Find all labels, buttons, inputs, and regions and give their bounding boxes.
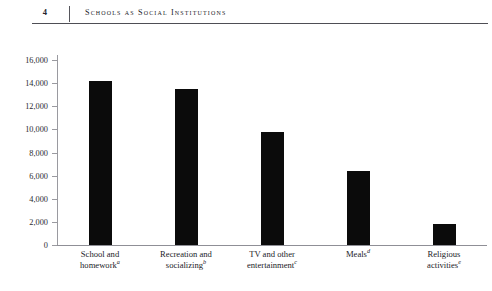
x-label-line: Religious [428,249,461,259]
y-axis-tick [52,199,57,200]
x-label-line: Recreation and [160,249,212,259]
x-label-line: activities [427,260,458,270]
y-axis-tick [52,222,57,223]
footnote-marker: b [203,259,206,266]
x-axis-category-label: TV and otherentertainmentc [223,249,321,272]
x-axis-category-label: Recreation andsocializingb [137,249,235,272]
x-axis-category-label: School andhomeworka [51,249,149,272]
x-axis-labels: School andhomeworkaRecreation andsociali… [57,249,487,287]
y-axis-tick [52,129,57,130]
bar-series [0,0,492,245]
bar [89,81,112,245]
bar [175,89,198,245]
y-axis-tick [52,60,57,61]
x-axis-category-label: Religiousactivitiese [395,249,492,272]
x-label-line: socializing [166,260,203,270]
x-label-line: School and [81,249,119,259]
x-label-line: entertainment [247,260,294,270]
y-axis-tick [52,176,57,177]
bar-chart: 02,0004,0006,0008,00010,00012,00014,0001… [0,0,492,291]
bar [261,132,284,245]
footnote-marker: a [117,259,120,266]
x-label-line: Meals [346,249,367,259]
bar [347,171,370,245]
bar [433,224,456,245]
x-label-line: TV and other [249,249,295,259]
footnote-marker: c [294,259,297,266]
x-axis-line [57,245,487,246]
y-axis-tick [52,106,57,107]
y-axis-tick [52,245,57,246]
footnote-marker: e [458,259,461,266]
y-axis-tick [52,153,57,154]
footnote-marker: d [367,247,370,254]
x-axis-category-label: Mealsd [309,249,407,260]
y-axis-tick [52,83,57,84]
x-label-line: homework [80,260,117,270]
